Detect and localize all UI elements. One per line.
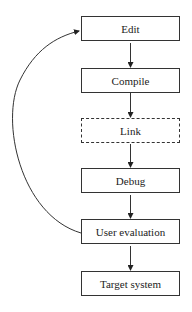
node-label: User evaluation — [96, 226, 165, 238]
node-label: Target system — [100, 278, 161, 290]
node-user-evaluation: User evaluation — [81, 219, 180, 244]
node-label: Edit — [121, 23, 139, 35]
node-debug: Debug — [81, 168, 180, 193]
node-compile: Compile — [81, 68, 180, 93]
node-target-system: Target system — [81, 271, 180, 296]
node-edit: Edit — [81, 16, 180, 41]
node-label: Compile — [112, 75, 150, 87]
node-label: Debug — [116, 175, 145, 187]
feedback-arrow — [13, 31, 81, 233]
node-label: Link — [120, 125, 141, 137]
node-link: Link — [81, 118, 180, 143]
connectors — [0, 0, 192, 312]
